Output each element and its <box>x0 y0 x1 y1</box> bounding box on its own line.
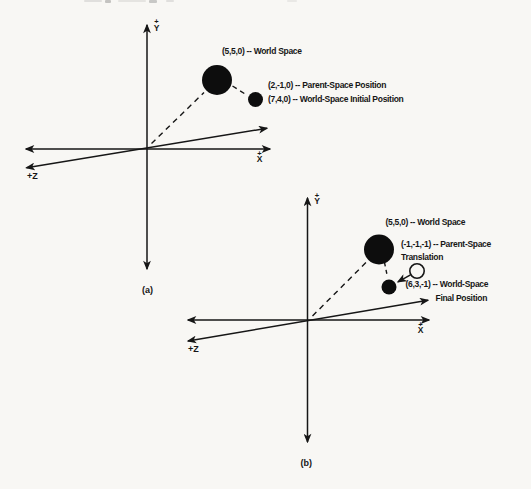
a-parent-sphere <box>202 65 232 95</box>
a-world-space-label: (5,5,0) -- World Space <box>222 46 302 56</box>
a-y-letter: Y <box>151 25 163 33</box>
a-parent-to-child-dashed-line <box>233 86 248 96</box>
b-parent-space-translation-label-line1: (-1,-1,-1) -- Parent-Space <box>401 239 491 249</box>
a-parent-space-position-label: (2,-1,0) -- Parent-Space Position <box>268 80 386 90</box>
b-child-sphere <box>382 280 397 295</box>
b-origin-to-parent-dashed-line <box>313 263 367 317</box>
b-translation-ghost-circle <box>410 264 424 278</box>
a-origin-to-parent-dashed-line <box>152 93 205 144</box>
diagram-a <box>26 25 270 269</box>
diagram-b <box>188 198 429 442</box>
a-x-axis-label: + X <box>254 151 266 164</box>
b-parent-space-translation-label-line2: Translation <box>401 252 443 262</box>
b-parent-sphere <box>364 235 394 265</box>
b-x-axis-label: + X <box>415 322 427 335</box>
b-world-space-label: (5,5,0) -- World Space <box>386 217 466 227</box>
a-caption: (a) <box>142 285 153 295</box>
a-z-axis-label: +Z <box>27 171 38 181</box>
b-z-axis-label: +Z <box>188 344 199 354</box>
figure-canvas: + Y (5,5,0) -- World Space (2,-1,0) -- P… <box>0 0 531 489</box>
a-y-axis-label: + Y <box>151 19 163 32</box>
a-child-sphere <box>248 92 263 107</box>
b-x-letter: X <box>415 327 427 335</box>
a-world-space-initial-position-label: (7,4,0) -- World-Space Initial Position <box>268 94 404 104</box>
b-parent-to-child-dashed-line <box>385 263 388 278</box>
b-caption: (b) <box>301 458 313 468</box>
b-world-space-final-position-label-line1: (6,3,-1) -- World-Space <box>406 279 489 289</box>
a-x-letter: X <box>254 156 266 164</box>
b-y-axis-label: + Y <box>311 193 323 206</box>
b-y-letter: Y <box>311 198 323 206</box>
b-world-space-final-position-label-line2: Final Position <box>436 293 488 303</box>
